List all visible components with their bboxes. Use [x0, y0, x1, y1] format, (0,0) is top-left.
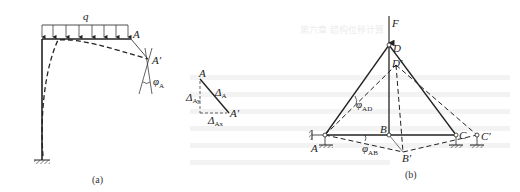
label-B: B: [380, 123, 387, 135]
angle-arc-AB: [365, 135, 366, 141]
label-A: A: [132, 28, 140, 40]
diagram-canvas: 第六章 结构位移计算 q: [0, 0, 520, 192]
fixed-support: [34, 160, 50, 164]
label-A-prime: A′: [151, 54, 162, 66]
node-A: [323, 133, 327, 137]
background-bleed-text: 第六章 结构位移计算: [190, 24, 510, 165]
tangent-line: [139, 48, 152, 94]
rotation-arc: [143, 82, 150, 84]
distributed-load-q: [42, 25, 128, 37]
figure-b-truss: F: [309, 16, 491, 181]
label-delta-Ax: ΔAx: [207, 114, 224, 128]
node-B: [387, 133, 391, 137]
vertical-reference-line: [145, 48, 152, 94]
label-D: D: [392, 42, 401, 54]
svg-text:第六章 结构位移计算: 第六章 结构位移计算: [300, 24, 384, 35]
node-D: [387, 43, 391, 47]
triangle-label-A-prime: A′: [229, 107, 240, 119]
node-C-prime: [475, 133, 479, 137]
label-D-prime: D′: [391, 57, 403, 69]
load-label-q: q: [83, 10, 89, 22]
caption-b: (b): [405, 169, 417, 181]
node-C: [454, 133, 458, 137]
figure-a-frame: q A A′ φA A A′ ΔA ΔAy ΔAx (a): [34, 10, 240, 186]
label-A-b: A: [310, 142, 318, 154]
caption-a: (a): [92, 174, 103, 186]
triangle-label-A: A: [198, 67, 206, 79]
label-F: F: [391, 17, 399, 29]
deflected-shape: [42, 40, 148, 156]
label-phi-A: φA: [153, 75, 164, 90]
label-B-prime: B′: [402, 152, 412, 164]
label-delta-A: ΔA: [214, 86, 227, 100]
label-C-prime: C′: [481, 130, 491, 142]
label-C: C: [459, 129, 467, 141]
